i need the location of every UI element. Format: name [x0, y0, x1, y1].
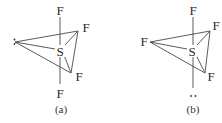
lone-pair-dot — [190, 95, 192, 97]
caption-b: (b) — [187, 103, 200, 116]
fluorine-upper-right-b: F — [212, 18, 219, 33]
sf4-geometry-diagram: S F F F F (a) S F F F F (b) — [0, 0, 222, 123]
panel-b: S F F F F (b) — [140, 3, 219, 116]
panel-a: S F F F F (a) — [14, 3, 90, 116]
fluorine-upper-right-a: F — [82, 20, 89, 35]
fluorine-left-b: F — [140, 34, 147, 49]
fluorine-lower-right-b: F — [207, 69, 214, 84]
sulfur-label-b: S — [188, 44, 195, 59]
sulfur-label-a: S — [56, 44, 63, 59]
fluorine-lower-right-a: F — [75, 69, 82, 84]
fluorine-top-b: F — [189, 3, 196, 18]
fluorine-bottom-a: F — [56, 86, 63, 101]
bond-s-lower-a — [64, 55, 71, 73]
lone-pair-dot — [14, 39, 16, 41]
caption-a: (a) — [55, 103, 68, 116]
lone-pair-dot — [14, 43, 16, 45]
lone-pair-dot — [195, 95, 197, 97]
edge-lp-upper-a — [15, 31, 78, 42]
fluorine-top-a: F — [56, 3, 63, 18]
edge-upper-lower-b — [205, 31, 210, 73]
